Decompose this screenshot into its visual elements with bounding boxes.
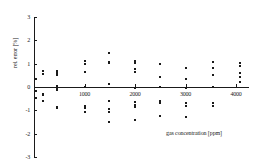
data-point <box>108 52 110 54</box>
data-point <box>185 87 187 89</box>
data-point <box>185 105 187 107</box>
y-axis-tick-label: 0 <box>18 84 30 90</box>
scatter-chart-figure: 3210-1-2-3 1000200030004000 rel. error [… <box>0 0 258 168</box>
data-point <box>108 108 110 110</box>
y-axis-tick-label: 3 <box>18 14 30 20</box>
data-point <box>84 71 86 73</box>
data-point <box>239 62 241 64</box>
data-point <box>42 73 44 75</box>
data-point <box>84 86 86 88</box>
data-point <box>35 78 37 80</box>
data-point <box>56 107 58 109</box>
plot-area: 3210-1-2-3 1000200030004000 <box>0 0 258 168</box>
data-point <box>212 61 214 63</box>
y-axis-tick-label: -2 <box>18 131 30 137</box>
data-point <box>185 116 187 118</box>
data-point <box>239 81 241 83</box>
data-point <box>185 78 187 80</box>
data-point <box>159 76 161 78</box>
data-point <box>108 62 110 64</box>
data-point <box>159 100 161 102</box>
x-axis-zero-line <box>34 87 249 88</box>
data-point <box>134 119 136 121</box>
x-axis-tick-label: 1000 <box>74 91 96 97</box>
data-point <box>212 105 214 107</box>
x-axis-tick <box>236 84 237 87</box>
data-point <box>56 89 58 91</box>
data-point <box>108 83 110 85</box>
data-point <box>108 111 110 113</box>
data-point <box>35 90 37 92</box>
data-point <box>134 87 136 89</box>
data-point <box>159 63 161 65</box>
data-point <box>239 72 241 74</box>
x-axis-tick-label: 4000 <box>225 91 247 97</box>
data-point <box>84 111 86 113</box>
data-point <box>212 86 214 88</box>
data-point <box>42 94 44 96</box>
data-point <box>159 86 161 88</box>
y-axis-tick <box>34 64 37 65</box>
data-point <box>212 74 214 76</box>
y-axis-tick-label: -3 <box>18 154 30 160</box>
data-point <box>134 68 136 70</box>
data-point <box>134 106 136 108</box>
data-point <box>108 121 110 123</box>
y-axis-tick <box>34 134 37 135</box>
data-point <box>159 115 161 117</box>
data-point <box>42 70 44 72</box>
x-axis-tick-label: 2000 <box>124 91 146 97</box>
y-axis-tick <box>34 110 37 111</box>
y-axis-tick <box>34 17 37 18</box>
y-axis-tick <box>34 87 37 88</box>
data-point <box>134 62 136 64</box>
data-point <box>159 102 161 104</box>
data-point <box>84 63 86 65</box>
data-point <box>185 102 187 104</box>
data-point <box>239 65 241 67</box>
y-axis-tick-label: 1 <box>18 61 30 67</box>
y-axis-tick <box>34 40 37 41</box>
x-axis-tick-label: 3000 <box>175 91 197 97</box>
y-axis-tick <box>34 157 37 158</box>
data-point <box>185 67 187 69</box>
data-point <box>84 107 86 109</box>
data-point <box>84 105 86 107</box>
y-axis-title: rel. error [%] <box>12 38 18 68</box>
data-point <box>239 76 241 78</box>
data-point <box>35 97 37 99</box>
data-point <box>108 100 110 102</box>
data-point <box>42 100 44 102</box>
x-axis-title: gas concentration [ppm] <box>166 130 222 136</box>
y-axis-tick-label: -1 <box>18 107 30 113</box>
data-point <box>134 71 136 73</box>
y-axis-tick-label: 2 <box>18 37 30 43</box>
data-point <box>212 67 214 69</box>
data-point <box>56 85 58 87</box>
data-point <box>56 74 58 76</box>
